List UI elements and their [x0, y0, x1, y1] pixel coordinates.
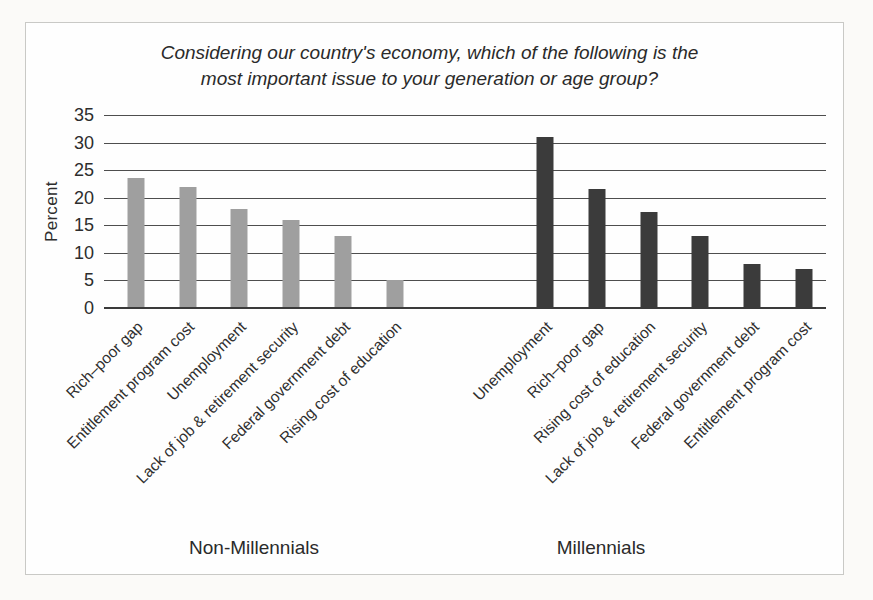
gridline-20: [104, 198, 826, 199]
x-axis-baseline: [104, 307, 826, 309]
gridline-25: [104, 170, 826, 171]
bar-non-millennials-federal-government-debt: [334, 236, 351, 308]
bar-non-millennials-lack-of-job-retirement-security: [283, 220, 300, 308]
bar-millennials-unemployment: [537, 137, 554, 308]
gridline-10: [104, 253, 826, 254]
y-tick-label-35: 35: [74, 105, 94, 126]
y-tick-label-10: 10: [74, 242, 94, 263]
gridline-15: [104, 225, 826, 226]
gridline-35: [104, 115, 826, 116]
bar-non-millennials-rich-poor-gap: [127, 178, 144, 308]
plot-area: [104, 115, 826, 308]
y-tick-label-0: 0: [84, 298, 94, 319]
y-axis-ticks: 35302520151050: [26, 115, 94, 308]
y-tick-label-25: 25: [74, 160, 94, 181]
chart-title-line-2: most important issue to your generation …: [26, 66, 833, 92]
bar-millennials-rising-cost-of-education: [640, 212, 657, 309]
chart-panel: Considering our country's economy, which…: [25, 22, 844, 575]
bar-non-millennials-rising-cost-of-education: [386, 280, 403, 308]
chart-title-line-1: Considering our country's economy, which…: [26, 40, 833, 66]
bar-non-millennials-unemployment: [231, 209, 248, 308]
y-tick-label-20: 20: [74, 187, 94, 208]
bar-millennials-lack-of-job-retirement-security: [692, 236, 709, 308]
bar-non-millennials-entitlement-program-cost: [179, 187, 196, 308]
chart-title: Considering our country's economy, which…: [26, 40, 833, 91]
x-axis-labels: Rich–poor gapEntitlement program costUne…: [104, 308, 826, 538]
y-tick-label-15: 15: [74, 215, 94, 236]
gridline-5: [104, 280, 826, 281]
bar-millennials-entitlement-program-cost: [795, 269, 812, 308]
group-label-non-millennials: Non-Millennials: [189, 537, 319, 559]
gridline-30: [104, 143, 826, 144]
bar-millennials-rich-poor-gap: [588, 189, 605, 308]
bar-millennials-federal-government-debt: [744, 264, 761, 308]
y-tick-label-30: 30: [74, 132, 94, 153]
y-tick-label-5: 5: [84, 270, 94, 291]
group-label-millennials: Millennials: [557, 537, 646, 559]
